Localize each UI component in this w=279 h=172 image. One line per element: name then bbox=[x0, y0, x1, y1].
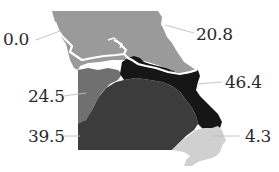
label-east: 46.4 bbox=[225, 74, 262, 91]
label-north-west: 0.0 bbox=[3, 31, 29, 48]
label-north-east: 20.8 bbox=[196, 26, 233, 43]
label-south-west: 39.5 bbox=[28, 128, 65, 145]
label-west-central: 24.5 bbox=[28, 88, 65, 105]
label-south-east: 4.3 bbox=[245, 128, 271, 145]
